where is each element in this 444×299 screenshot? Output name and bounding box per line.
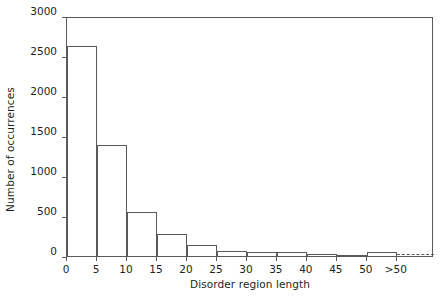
histogram-bar — [67, 46, 97, 256]
y-axis-label: Number of occurrences — [2, 0, 18, 299]
x-tick-mark — [216, 257, 217, 261]
y-tick-mark — [62, 137, 66, 138]
x-tick-label: >50 — [385, 263, 407, 275]
x-tick-mark — [66, 257, 67, 261]
x-tick-label: 10 — [119, 263, 132, 275]
x-tick-label: 35 — [269, 263, 282, 275]
x-tick-mark — [366, 257, 367, 261]
histogram-bar — [367, 252, 397, 256]
x-tick-label: 45 — [329, 263, 342, 275]
histogram-bar — [277, 252, 307, 256]
x-tick-label: 25 — [209, 263, 222, 275]
histogram-bar — [187, 245, 217, 256]
y-tick-label: 2500 — [30, 45, 57, 57]
y-tick-mark — [62, 217, 66, 218]
dashed-tail-line — [397, 254, 434, 255]
y-tick-label: 500 — [37, 205, 57, 217]
x-tick-label: 5 — [93, 263, 100, 275]
y-tick-mark — [62, 177, 66, 178]
histogram-bar — [337, 255, 367, 256]
x-tick-mark — [306, 257, 307, 261]
x-axis-label: Disorder region length — [66, 278, 434, 290]
x-tick-mark — [96, 257, 97, 261]
x-tick-label: 40 — [299, 263, 312, 275]
histogram-chart: Number of occurrences 050010001500200025… — [0, 0, 444, 299]
histogram-bar — [97, 145, 127, 256]
x-tick-label: 20 — [179, 263, 192, 275]
histogram-bar — [217, 251, 247, 256]
plot-area — [66, 17, 433, 257]
x-tick-label: 15 — [149, 263, 162, 275]
histogram-bar — [247, 252, 277, 256]
y-tick-label: 0 — [50, 245, 57, 257]
y-tick-mark — [62, 57, 66, 58]
y-tick-label: 1000 — [30, 165, 57, 177]
y-tick-label: 1500 — [30, 125, 57, 137]
x-tick-mark — [396, 257, 397, 261]
x-tick-label: 30 — [239, 263, 252, 275]
histogram-bar — [157, 234, 187, 256]
x-tick-label: 0 — [63, 263, 70, 275]
x-tick-mark — [126, 257, 127, 261]
histogram-bar — [307, 254, 337, 256]
x-tick-mark — [156, 257, 157, 261]
x-tick-mark — [246, 257, 247, 261]
y-tick-label: 3000 — [30, 5, 57, 17]
x-tick-mark — [336, 257, 337, 261]
x-tick-mark — [186, 257, 187, 261]
histogram-bar — [127, 212, 157, 256]
y-tick-mark — [62, 97, 66, 98]
x-tick-label: 50 — [359, 263, 372, 275]
y-tick-mark — [62, 17, 66, 18]
x-tick-mark — [276, 257, 277, 261]
y-tick-label: 2000 — [30, 85, 57, 97]
